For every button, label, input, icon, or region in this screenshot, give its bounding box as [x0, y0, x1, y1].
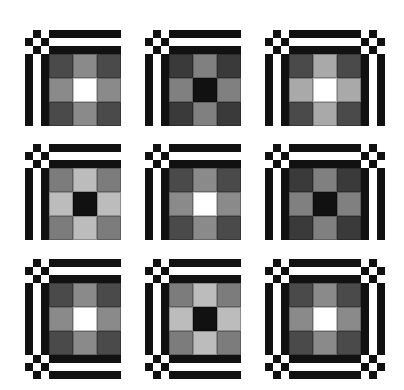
center-grid [169, 54, 241, 126]
checker-square [273, 259, 281, 267]
bottom-border-stripes [169, 355, 241, 379]
checker-square [145, 275, 153, 283]
checker-square [41, 371, 49, 379]
checker-square [265, 363, 273, 371]
checker-square [145, 144, 153, 152]
checker-square [33, 371, 41, 379]
gray-square [313, 283, 337, 307]
gray-square [97, 192, 121, 216]
quilt-block-1 [25, 30, 121, 126]
stripe [161, 283, 169, 355]
gray-square [169, 78, 193, 102]
checker-square [265, 38, 273, 46]
top-right-checker-corner [361, 259, 385, 283]
gray-square [337, 192, 361, 216]
checker-square [281, 144, 289, 152]
checker-square [25, 144, 33, 152]
gray-square [193, 192, 217, 216]
checker-square [145, 46, 153, 54]
checker-square [153, 38, 161, 46]
checker-square [153, 363, 161, 371]
gray-square [289, 78, 313, 102]
checker-square [25, 160, 33, 168]
top-left-checker-corner [265, 144, 289, 168]
quilt-block-8 [145, 259, 241, 379]
gray-square [337, 331, 361, 355]
stripe [361, 54, 369, 126]
left-border-stripes [25, 54, 49, 126]
stripe [289, 30, 361, 38]
stripe [145, 168, 153, 240]
stripe [369, 283, 377, 355]
checker-square [41, 152, 49, 160]
stripe [273, 168, 281, 240]
stripe [369, 54, 377, 126]
gray-square [217, 168, 241, 192]
stripe [49, 38, 121, 46]
gray-square [217, 192, 241, 216]
checker-square [33, 355, 41, 363]
gray-square [49, 168, 73, 192]
left-border-stripes [25, 283, 49, 355]
right-border-stripes [361, 283, 385, 355]
stripe [161, 168, 169, 240]
checker-square [281, 371, 289, 379]
center-grid [289, 283, 361, 355]
stripe [273, 283, 281, 355]
stripe [49, 30, 121, 38]
checker-square [161, 30, 169, 38]
checker-square [161, 144, 169, 152]
stripe [281, 168, 289, 240]
stripe [169, 275, 241, 283]
checker-square [281, 363, 289, 371]
gray-square [49, 283, 73, 307]
checker-square [161, 38, 169, 46]
stripe [289, 275, 361, 283]
left-border-stripes [145, 168, 169, 240]
gray-square [73, 283, 97, 307]
checker-square [145, 160, 153, 168]
checker-square [25, 152, 33, 160]
checker-square [41, 267, 49, 275]
checker-square [145, 38, 153, 46]
checker-square [33, 267, 41, 275]
gray-square [193, 78, 217, 102]
checker-square [361, 355, 369, 363]
gray-square [97, 331, 121, 355]
stripe [369, 168, 377, 240]
checker-square [25, 355, 33, 363]
top-border-stripes [289, 30, 361, 54]
checker-square [265, 152, 273, 160]
checker-square [369, 259, 377, 267]
gray-square [97, 216, 121, 240]
gray-square [289, 102, 313, 126]
checker-square [273, 267, 281, 275]
checker-square [145, 371, 153, 379]
gray-square [289, 283, 313, 307]
checker-square [25, 30, 33, 38]
stripe [41, 168, 49, 240]
stripe [25, 54, 33, 126]
checker-square [153, 275, 161, 283]
checker-square [25, 259, 33, 267]
checker-square [369, 160, 377, 168]
gray-square [289, 192, 313, 216]
checker-square [369, 38, 377, 46]
gray-square [97, 283, 121, 307]
gray-square [169, 283, 193, 307]
stripe [289, 363, 361, 371]
checker-square [25, 371, 33, 379]
checker-square [377, 355, 385, 363]
checker-square [145, 30, 153, 38]
checker-square [265, 160, 273, 168]
checker-square [33, 363, 41, 371]
quilt-block-7 [25, 259, 121, 379]
gray-square [217, 102, 241, 126]
checker-square [161, 259, 169, 267]
quilt-block-9 [265, 259, 385, 379]
stripe [41, 54, 49, 126]
gray-square [313, 331, 337, 355]
gray-square [289, 54, 313, 78]
checker-square [153, 144, 161, 152]
gray-square [169, 102, 193, 126]
